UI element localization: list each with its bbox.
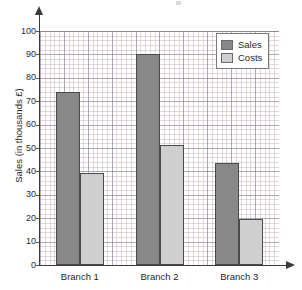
y-tick-mark bbox=[36, 148, 39, 149]
legend-swatch-sales-icon bbox=[221, 40, 233, 50]
y-axis-arrow-icon bbox=[35, 6, 43, 15]
y-tick-label: 10 bbox=[2, 237, 36, 246]
bar-chart: 0102030405060708090100 Sales (in thousan… bbox=[0, 0, 302, 290]
legend-swatch-costs-icon bbox=[221, 53, 233, 63]
y-tick-label: 20 bbox=[2, 214, 36, 223]
y-tick-label: 90 bbox=[2, 50, 36, 59]
scan-artifact bbox=[176, 1, 181, 5]
y-axis-line bbox=[39, 12, 40, 266]
y-tick-mark bbox=[36, 171, 39, 172]
bar-branch-3-costs bbox=[239, 219, 263, 265]
legend-item-costs[interactable]: Costs bbox=[221, 51, 262, 64]
y-tick-mark bbox=[36, 265, 39, 266]
legend-label-costs: Costs bbox=[238, 52, 262, 63]
bar-branch-1-costs bbox=[80, 173, 104, 265]
bar-branch-2-costs bbox=[160, 145, 184, 266]
legend-item-sales[interactable]: Sales bbox=[221, 38, 262, 51]
y-axis-title: Sales (in thousands £) bbox=[13, 66, 24, 206]
bar-branch-3-sales bbox=[215, 163, 239, 265]
y-tick-mark bbox=[36, 125, 39, 126]
x-axis-arrow-icon bbox=[286, 261, 295, 269]
legend-label-sales: Sales bbox=[238, 39, 262, 50]
y-tick-mark bbox=[36, 54, 39, 55]
x-axis-label: Branch 1 bbox=[40, 271, 120, 282]
y-tick-label: 100 bbox=[2, 27, 36, 36]
legend: Sales Costs bbox=[216, 33, 269, 69]
x-axis-label: Branch 2 bbox=[120, 271, 200, 282]
y-tick-mark bbox=[36, 31, 39, 32]
x-axis-label: Branch 3 bbox=[199, 271, 279, 282]
y-tick-mark bbox=[36, 242, 39, 243]
bar-branch-2-sales bbox=[136, 54, 160, 265]
y-tick-mark bbox=[36, 78, 39, 79]
x-axis-line bbox=[39, 265, 287, 266]
y-tick-label: 0 bbox=[2, 261, 36, 270]
y-tick-mark bbox=[36, 195, 39, 196]
y-tick-mark bbox=[36, 101, 39, 102]
bar-branch-1-sales bbox=[56, 92, 80, 265]
y-tick-mark bbox=[36, 218, 39, 219]
